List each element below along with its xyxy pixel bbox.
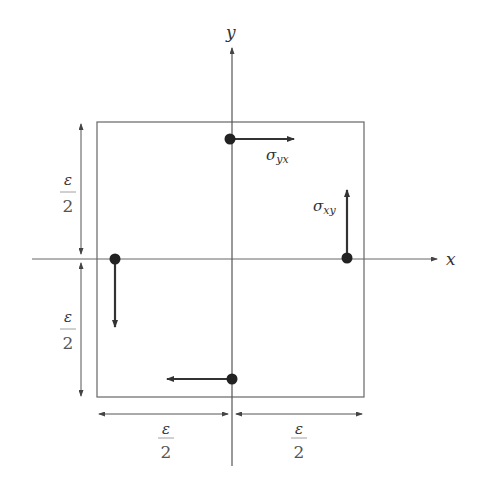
fraction-lower-left: ε 2 xyxy=(60,308,76,353)
svg-text:ε: ε xyxy=(64,171,72,189)
svg-text:ε: ε xyxy=(295,420,303,438)
fraction-bottom-left: ε 2 xyxy=(158,420,174,462)
stress-point-top xyxy=(225,134,236,145)
svg-text:2: 2 xyxy=(63,196,74,216)
fraction-bottom-right: ε 2 xyxy=(291,420,307,462)
stress-element-diagram: x y σyx σxy ε 2 ε 2 ε 2 ε xyxy=(0,0,482,490)
stress-point-bottom xyxy=(227,374,238,385)
sigma-xy-label: σxy xyxy=(313,197,336,217)
stress-top: σyx xyxy=(225,134,295,167)
svg-text:2: 2 xyxy=(161,442,172,462)
fraction-upper-left: ε 2 xyxy=(60,171,76,216)
y-axis-label: y xyxy=(225,22,236,42)
stress-bottom xyxy=(167,374,238,385)
svg-text:ε: ε xyxy=(64,308,72,326)
svg-text:2: 2 xyxy=(63,333,74,353)
stress-left xyxy=(110,254,121,328)
sigma-yx-label: σyx xyxy=(266,146,289,166)
stress-point-right xyxy=(342,253,353,264)
stress-right: σxy xyxy=(313,190,353,264)
stress-point-left xyxy=(110,254,121,265)
svg-text:2: 2 xyxy=(294,442,305,462)
svg-text:ε: ε xyxy=(162,420,170,438)
x-axis-label: x xyxy=(446,249,456,269)
